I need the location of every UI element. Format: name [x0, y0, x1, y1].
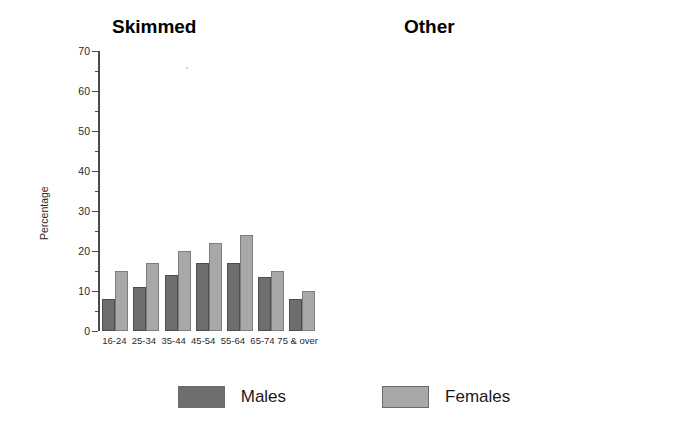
y-tick-major [92, 91, 98, 92]
chart-panel-other: Other Percentage 16-2425-3435-4445-5455-… [344, 0, 688, 370]
bar-group [256, 51, 287, 331]
y-tick-minor [95, 271, 99, 272]
bar-males-45-54 [196, 263, 209, 331]
x-tick-label: 65-74 [248, 335, 278, 346]
y-tick-minor [95, 71, 99, 72]
chart-panel-skimmed: Skimmed Percentage 16-2425-3435-4445-545… [0, 0, 350, 370]
x-tick-label: 45-54 [188, 335, 218, 346]
bar-females-65-74 [271, 271, 284, 331]
legend-swatch-males [178, 386, 225, 408]
x-tick-label: 55-64 [218, 335, 248, 346]
legend-label-females: Females [445, 387, 510, 407]
plot-area-skimmed: 16-2425-3435-4445-5455-6465-7475 & over … [98, 51, 318, 331]
x-tick-label: 25-34 [129, 335, 159, 346]
y-tick-label: 70 [78, 45, 90, 57]
bar-group [287, 51, 318, 331]
bar-group [131, 51, 162, 331]
y-axis-label-skimmed: Percentage [38, 186, 50, 240]
y-tick-minor [95, 111, 99, 112]
y-tick-label: 20 [78, 245, 90, 257]
y-tick-major [92, 291, 98, 292]
y-tick-major [92, 51, 98, 52]
bar-males-75-over [289, 299, 302, 331]
y-tick-label: 30 [78, 205, 90, 217]
y-tick-major [92, 171, 98, 172]
y-tick-label: 60 [78, 85, 90, 97]
bar-females-35-44 [178, 251, 191, 331]
legend-item-males: Males [178, 386, 286, 408]
y-tick-label: 40 [78, 165, 90, 177]
bar-males-65-74 [258, 277, 271, 331]
chart-title-skimmed: Skimmed [112, 16, 196, 38]
y-tick-major [92, 331, 98, 332]
y-tick-major [92, 211, 98, 212]
bar-males-25-34 [133, 287, 146, 331]
bar-males-35-44 [165, 275, 178, 331]
bar-males-55-64 [227, 263, 240, 331]
bar-females-45-54 [209, 243, 222, 331]
legend-label-males: Males [241, 387, 286, 407]
bar-females-16-24 [115, 271, 128, 331]
y-tick-minor [95, 231, 99, 232]
y-tick-label: 10 [78, 285, 90, 297]
y-tick-label: 0 [84, 325, 90, 337]
chart-legend: Males Females [0, 374, 688, 420]
x-tick-label: 16-24 [100, 335, 130, 346]
bar-females-75-over [302, 291, 315, 331]
bar-males-16-24 [102, 299, 115, 331]
bar-group [193, 51, 224, 331]
legend-swatch-females [382, 386, 429, 408]
y-tick-minor [95, 311, 99, 312]
y-tick-minor [95, 151, 99, 152]
x-tick-label: 35-44 [159, 335, 189, 346]
bar-group [100, 51, 131, 331]
y-tick-major [92, 251, 98, 252]
bar-females-55-64 [240, 235, 253, 331]
y-tick-major [92, 131, 98, 132]
bar-group [224, 51, 255, 331]
bar-groups-skimmed [100, 51, 319, 331]
bar-group [162, 51, 193, 331]
x-axis-labels-skimmed: 16-2425-3435-4445-5455-6465-7475 & over [100, 335, 319, 346]
y-tick-label: 50 [78, 125, 90, 137]
legend-item-females: Females [382, 386, 510, 408]
y-tick-minor [95, 191, 99, 192]
bar-females-25-34 [146, 263, 159, 331]
x-tick-label: 75 & over [277, 335, 318, 346]
chart-title-other: Other [404, 16, 455, 38]
